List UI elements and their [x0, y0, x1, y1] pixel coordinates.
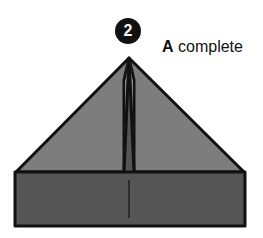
- base-band: [15, 172, 245, 226]
- step-caption: A complete: [162, 38, 243, 56]
- triangle-right-flap: [129, 58, 244, 172]
- caption-text: complete: [174, 38, 243, 55]
- step-number-badge: 2: [115, 18, 141, 44]
- caption-letter: A: [162, 38, 174, 55]
- triangle-left-flap: [16, 58, 129, 172]
